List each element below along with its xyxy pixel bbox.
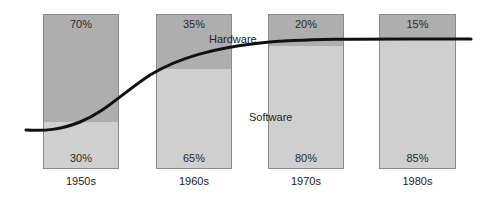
hardware-software-divider-curve [0, 0, 493, 197]
software-label: Software [249, 111, 292, 123]
hardware-label: Hardware [209, 33, 257, 45]
